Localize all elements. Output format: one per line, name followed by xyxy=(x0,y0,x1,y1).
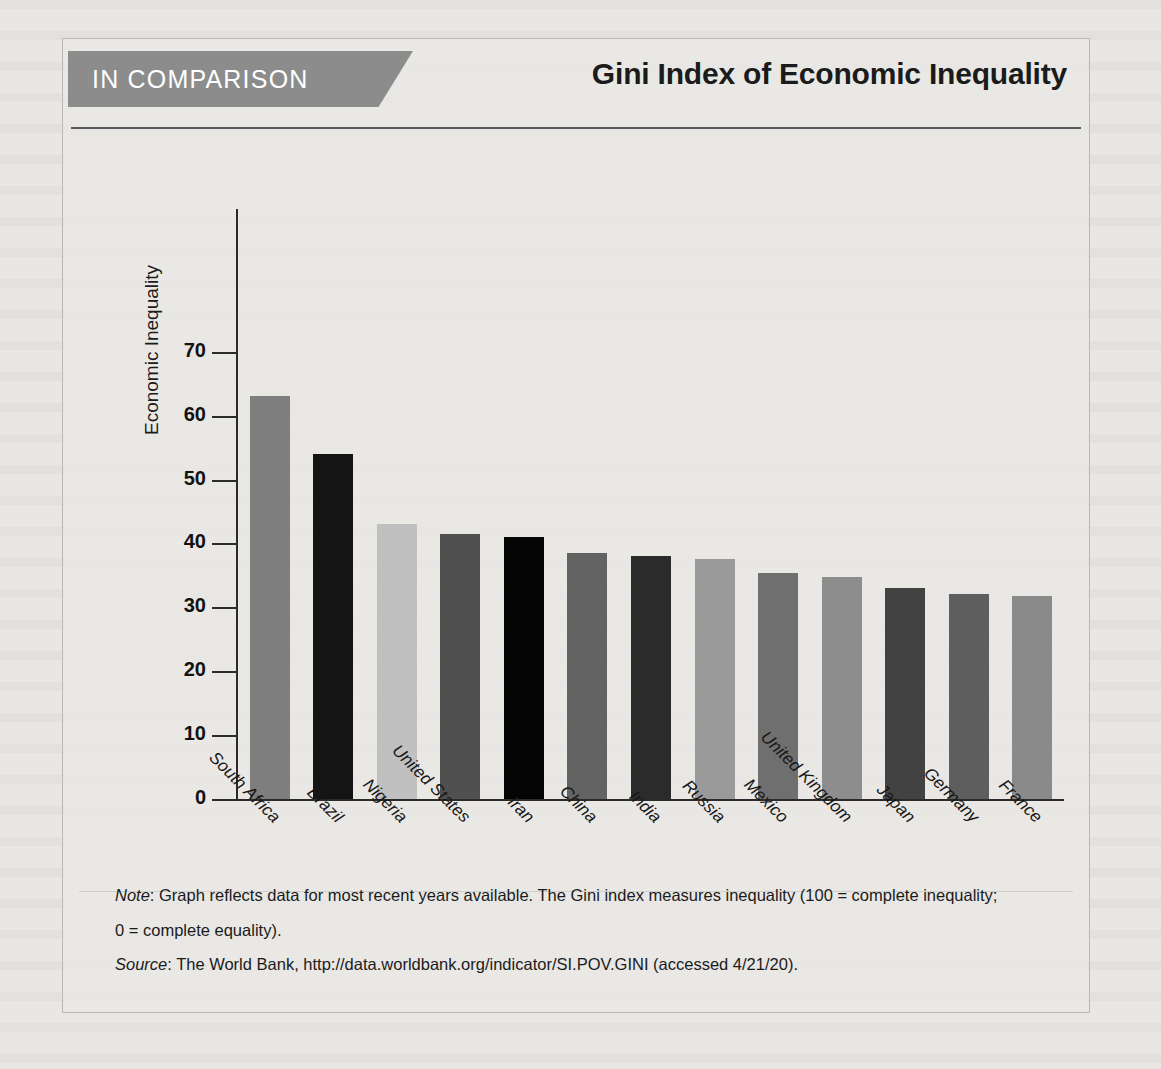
bar-slot xyxy=(1000,135,1064,801)
bar[interactable] xyxy=(695,559,735,799)
chart-plot-area: Economic Inequality 010203040506070 Sout… xyxy=(63,135,1089,895)
bar-slot xyxy=(937,135,1001,801)
bar[interactable] xyxy=(250,396,290,799)
source-line: Source: The World Bank, http://data.worl… xyxy=(115,951,1045,978)
in-comparison-banner: IN COMPARISON xyxy=(68,51,413,107)
bar[interactable] xyxy=(885,588,925,799)
y-axis-tick-label-60: 60 xyxy=(184,403,206,426)
bar-slot xyxy=(492,135,556,801)
y-axis-tick-label-40: 40 xyxy=(184,530,206,553)
figure-header: IN COMPARISON Gini Index of Economic Ine… xyxy=(63,39,1089,131)
bar-slot xyxy=(556,135,620,801)
bar[interactable] xyxy=(567,553,607,799)
bar[interactable] xyxy=(440,534,480,799)
y-axis-tick-60 xyxy=(212,416,238,418)
note-text: : Graph reflects data for most recent ye… xyxy=(150,886,998,904)
header-divider xyxy=(71,127,1081,129)
y-axis-tick-10 xyxy=(212,735,238,737)
bar-slot xyxy=(746,135,810,801)
bar-slot xyxy=(619,135,683,801)
note-line-2: 0 = complete equality). xyxy=(115,917,1045,944)
bar-slot xyxy=(429,135,493,801)
y-axis-tick-0 xyxy=(212,799,238,801)
note-label: Note xyxy=(115,886,150,904)
y-axis-tick-label-0: 0 xyxy=(195,786,206,809)
bar-slot xyxy=(238,135,302,801)
y-axis-tick-70 xyxy=(212,352,238,354)
figure-container: IN COMPARISON Gini Index of Economic Ine… xyxy=(62,38,1090,1013)
bar[interactable] xyxy=(822,577,862,799)
bar[interactable] xyxy=(1012,596,1052,799)
bar-slot xyxy=(873,135,937,801)
banner-label: IN COMPARISON xyxy=(92,65,309,94)
y-axis-tick-30 xyxy=(212,607,238,609)
bar[interactable] xyxy=(504,537,544,799)
bar-series xyxy=(238,135,1064,801)
bar[interactable] xyxy=(631,556,671,799)
bar[interactable] xyxy=(313,454,353,799)
bar-slot xyxy=(302,135,366,801)
source-text: : The World Bank, http://data.worldbank.… xyxy=(167,955,798,973)
bar-slot xyxy=(810,135,874,801)
bar-slot xyxy=(683,135,747,801)
y-axis-tick-label-70: 70 xyxy=(184,339,206,362)
y-axis-tick-label-20: 20 xyxy=(184,658,206,681)
note-line: Note: Graph reflects data for most recen… xyxy=(115,882,1045,909)
y-axis-tick-label-50: 50 xyxy=(184,467,206,490)
y-axis-tick-label-10: 10 xyxy=(184,722,206,745)
y-axis-tick-50 xyxy=(212,480,238,482)
bar-slot xyxy=(365,135,429,801)
y-axis-tick-20 xyxy=(212,671,238,673)
bar[interactable] xyxy=(949,594,989,799)
source-label: Source xyxy=(115,955,167,973)
y-axis-tick-label-30: 30 xyxy=(184,594,206,617)
figure-notes: Note: Graph reflects data for most recen… xyxy=(63,882,1089,986)
y-axis-tick-40 xyxy=(212,543,238,545)
page-title: Gini Index of Economic Inequality xyxy=(592,57,1067,91)
